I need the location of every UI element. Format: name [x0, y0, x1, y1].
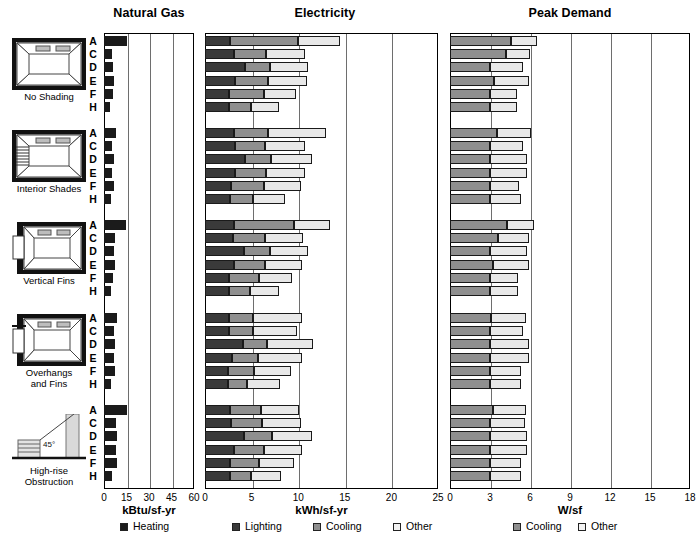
bar-segment-other	[490, 418, 525, 428]
bar-segment-heating	[104, 154, 114, 164]
bar-segment-lighting	[205, 260, 234, 270]
bar-segment-other	[265, 233, 303, 243]
axis-tick: 3	[478, 492, 502, 503]
bar-segment-cooling	[230, 194, 252, 204]
gridline	[392, 34, 393, 488]
bar-segment-cooling	[450, 471, 490, 481]
bar-segment-heating	[104, 89, 113, 99]
group-icon-interior-shades: Interior Shades	[12, 130, 86, 195]
axis-tick: 5	[240, 492, 264, 503]
legend-item-cooling-2: Cooling	[313, 520, 362, 532]
legend-label: Cooling	[526, 520, 562, 532]
bar-segment-cooling	[234, 260, 265, 270]
axis-tick: 9	[558, 492, 582, 503]
bar-segment-heating	[104, 405, 127, 415]
case-label-e: E	[86, 76, 100, 86]
gridline	[128, 34, 129, 488]
bar-segment-cooling	[234, 220, 295, 230]
legend-item-heating-0: Heating	[120, 520, 169, 532]
gridline	[611, 34, 612, 488]
bar-segment-cooling	[244, 431, 272, 441]
bar-segment-lighting	[205, 313, 229, 323]
bar-segment-cooling	[450, 353, 490, 363]
bar-segment-cooling	[450, 36, 511, 46]
bar-segment-other	[490, 194, 521, 204]
interior-shades-icon	[12, 130, 86, 182]
legend-swatch-cooling-icon	[313, 523, 321, 531]
bar-segment-lighting	[205, 89, 229, 99]
bar-segment-heating	[104, 102, 110, 112]
bar-segment-other	[294, 220, 329, 230]
legend-label: Other	[591, 520, 617, 532]
bar-segment-cooling	[450, 326, 490, 336]
bar-segment-heating	[104, 246, 114, 256]
bar-segment-other	[265, 260, 302, 270]
bar-segment-heating	[104, 353, 114, 363]
bar-segment-cooling	[243, 339, 266, 349]
bar-segment-other	[253, 194, 286, 204]
bar-segment-cooling	[228, 379, 247, 389]
bar-segment-cooling	[450, 366, 490, 376]
bar-segment-cooling	[228, 366, 254, 376]
bar-segment-heating	[104, 233, 115, 243]
axis-tick: 15	[333, 492, 357, 503]
bar-segment-heating	[104, 418, 116, 428]
bar-segment-lighting	[205, 471, 230, 481]
bar-segment-cooling	[235, 76, 269, 86]
bar-segment-other	[270, 246, 308, 256]
bar-segment-cooling	[244, 246, 270, 256]
bar-segment-heating	[104, 445, 116, 455]
bar-segment-cooling	[450, 220, 507, 230]
bar-segment-cooling	[229, 326, 253, 336]
bar-segment-other	[265, 141, 305, 151]
bar-segment-cooling	[450, 246, 490, 256]
overhangs-and-fins-icon	[12, 314, 86, 366]
axis-tick: 0	[438, 492, 462, 503]
bar-segment-cooling	[231, 418, 262, 428]
bar-segment-other	[266, 49, 305, 59]
bar-segment-cooling	[450, 194, 490, 204]
group-label-line-1: Overhangs	[26, 367, 72, 378]
bar-segment-other	[490, 379, 521, 389]
bar-segment-heating	[104, 458, 117, 468]
bar-segment-lighting	[205, 76, 235, 86]
bar-segment-other	[498, 233, 529, 243]
bar-segment-other	[271, 154, 312, 164]
bar-segment-other	[490, 366, 521, 376]
bar-segment-cooling	[450, 313, 491, 323]
bar-segment-cooling	[229, 273, 259, 283]
bar-segment-cooling	[229, 102, 250, 112]
bar-segment-lighting	[205, 36, 230, 46]
bar-segment-other	[506, 49, 530, 59]
bar-segment-lighting	[205, 220, 234, 230]
bar-segment-cooling	[450, 168, 490, 178]
bar-segment-other	[490, 89, 517, 99]
bar-segment-other	[251, 102, 279, 112]
bar-segment-heating	[104, 273, 113, 283]
legend-label: Lighting	[245, 520, 282, 532]
bar-segment-lighting	[205, 168, 235, 178]
bar-segment-cooling	[450, 141, 490, 151]
bar-segment-other	[266, 168, 305, 178]
bar-segment-cooling	[230, 405, 261, 415]
axis-tick: 30	[137, 492, 161, 503]
bar-segment-other	[254, 366, 290, 376]
bar-segment-other	[497, 128, 532, 138]
bar-segment-lighting	[205, 128, 234, 138]
bar-segment-cooling	[235, 141, 265, 151]
axis-tick: 15	[638, 492, 662, 503]
bar-segment-other	[268, 128, 326, 138]
bar-segment-lighting	[205, 458, 230, 468]
legend-swatch-other-icon	[578, 523, 586, 531]
group-label-line-2: and Fins	[31, 378, 67, 389]
case-label-c: C	[86, 326, 100, 336]
bar-segment-other	[259, 273, 292, 283]
case-label-h: H	[86, 379, 100, 389]
bar-segment-cooling	[234, 128, 268, 138]
group-label-line-1: High-rise	[30, 465, 68, 476]
legend-item-cooling-4: Cooling	[513, 520, 562, 532]
gridline	[531, 34, 532, 488]
bar-segment-cooling	[450, 102, 490, 112]
bar-segment-cooling	[450, 339, 490, 349]
bar-segment-heating	[104, 379, 111, 389]
